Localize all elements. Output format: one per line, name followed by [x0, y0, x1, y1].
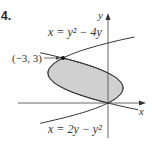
problem-number: 4. — [1, 9, 11, 23]
label-point: (−3, 3) — [12, 52, 42, 65]
label-curve-bottom: x = 2y − y² — [47, 122, 102, 136]
region-diagram: x = y² − 4y (−3, 3) x = 2y − y² x y — [0, 0, 152, 147]
figure: 4. x = y² − 4y (−3, 3) x = 2y − y² x y — [0, 0, 152, 147]
intersection-point — [61, 56, 65, 60]
label-curve-top: x = y² − 4y — [47, 25, 102, 39]
label-x-axis: x — [138, 105, 144, 117]
y-axis-arrow-icon — [106, 13, 111, 20]
label-y-axis: y — [97, 9, 103, 21]
